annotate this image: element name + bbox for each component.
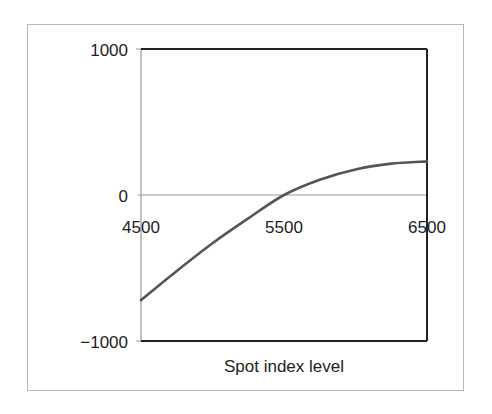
ytick-label-bottom: −1000: [80, 333, 128, 352]
xtick-label-right: 6500: [408, 218, 446, 237]
xtick-label-left: 4500: [122, 218, 160, 237]
ytick-label-zero: 0: [119, 187, 128, 206]
line-chart: 1000 0 −1000 4500 5500 6500 Spot index l…: [0, 0, 492, 414]
x-axis-title: Spot index level: [224, 357, 344, 376]
ytick-label-top: 1000: [90, 41, 128, 60]
xtick-label-mid: 5500: [265, 218, 303, 237]
